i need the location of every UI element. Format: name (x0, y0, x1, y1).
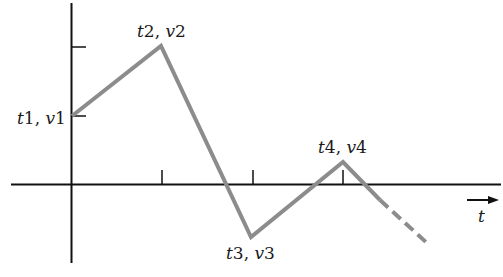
label-t1-v1: t1, v1 (17, 108, 66, 128)
axis-label-t: t (478, 206, 485, 226)
label-t2-v2: t2, v2 (137, 21, 186, 41)
label-t3-v3: t3, v3 (226, 243, 275, 263)
label-t4-v4: t4, v4 (318, 137, 367, 157)
waveform-continuation-dashed (380, 200, 427, 243)
arrow-right-icon (488, 196, 499, 204)
waveform-diagram: t1, v1 t2, v2 t3, v3 t4, v4 t (0, 0, 503, 277)
